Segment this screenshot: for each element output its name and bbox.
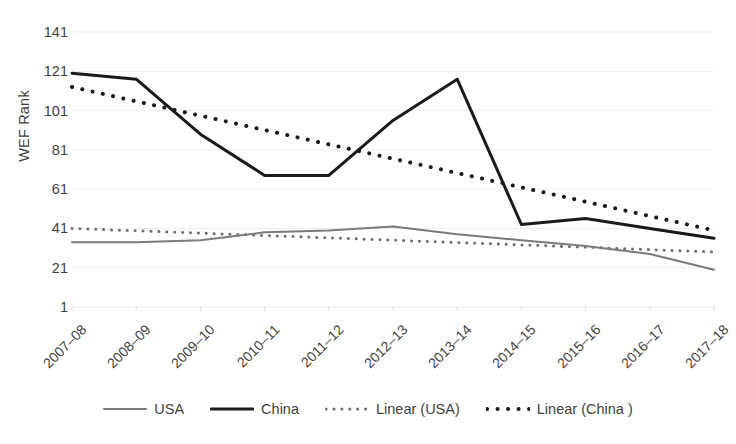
series-line-china bbox=[72, 73, 714, 238]
legend-label: Linear (USA) bbox=[376, 402, 460, 417]
y-tick-label: 121 bbox=[26, 64, 68, 79]
wef-rank-line-chart: WEF Rank 121416181101121141 2007–082008–… bbox=[0, 0, 736, 444]
y-tick-label: 101 bbox=[26, 104, 68, 119]
y-tick-label: 61 bbox=[26, 182, 68, 197]
legend-item[interactable]: USA bbox=[103, 402, 184, 417]
plot-area bbox=[72, 32, 714, 307]
y-tick-label: 1 bbox=[26, 300, 68, 315]
legend-label: Linear (China ) bbox=[537, 402, 633, 417]
dotted-gray-line-icon bbox=[325, 403, 369, 415]
y-tick-label: 41 bbox=[26, 221, 68, 236]
y-tick-label: 81 bbox=[26, 143, 68, 158]
legend-label: USA bbox=[154, 402, 184, 417]
legend-label: China bbox=[261, 402, 299, 417]
plot-svg bbox=[72, 32, 714, 307]
legend-item[interactable]: China bbox=[210, 402, 299, 417]
legend-item[interactable]: Linear (USA) bbox=[325, 402, 460, 417]
dotted-black-line-icon bbox=[486, 403, 530, 415]
solid-gray-line-icon bbox=[103, 403, 147, 415]
solid-black-line-icon bbox=[210, 403, 254, 415]
y-axis-tick-labels: 121416181101121141 bbox=[22, 0, 68, 320]
chart-legend: USAChinaLinear (USA)Linear (China ) bbox=[0, 402, 736, 417]
legend-item[interactable]: Linear (China ) bbox=[486, 402, 633, 417]
y-tick-label: 141 bbox=[26, 25, 68, 40]
y-tick-label: 21 bbox=[26, 261, 68, 276]
